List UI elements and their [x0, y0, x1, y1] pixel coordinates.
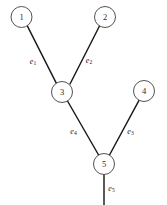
edge-labels-group: e1 e2 e3 e4 e5	[30, 56, 134, 194]
node-3[interactable]: 3	[52, 82, 73, 103]
edge-label-e3: e3	[127, 127, 134, 137]
nodes-group: 1 2 3 4 5	[11, 7, 155, 175]
edge-e1	[27, 26, 56, 84]
node-label-3: 3	[60, 87, 64, 97]
node-5[interactable]: 5	[94, 154, 115, 175]
edge-label-e5: e5	[108, 184, 115, 194]
edge-label-e4: e4	[70, 127, 77, 137]
edge-label-e2: e2	[86, 56, 93, 66]
node-1[interactable]: 1	[11, 7, 32, 28]
node-label-2: 2	[103, 12, 107, 22]
node-4[interactable]: 4	[134, 81, 155, 102]
node-2[interactable]: 2	[95, 7, 116, 28]
node-label-1: 1	[19, 12, 23, 22]
edges-group	[27, 26, 139, 205]
edge-e3	[110, 100, 140, 155]
graph-canvas: 1 2 3 4 5 e1 e2 e3 e4 e5	[0, 0, 167, 205]
edge-label-e1: e1	[30, 56, 37, 66]
node-label-5: 5	[102, 159, 106, 169]
graph-diagram: 1 2 3 4 5 e1 e2 e3 e4 e5	[0, 0, 167, 205]
edge-e2	[70, 26, 100, 84]
